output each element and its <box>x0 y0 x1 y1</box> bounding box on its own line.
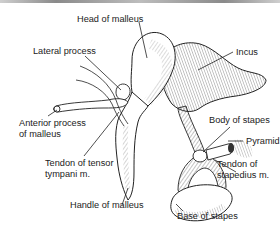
lateral-process-shape <box>116 84 130 100</box>
label-tendon-tensor-line1: Tendon of tensor <box>45 158 113 169</box>
label-tendon-tensor-line2: tympani m. <box>45 169 90 180</box>
label-head-of-malleus: Head of malleus <box>77 14 143 25</box>
label-incus: Incus <box>236 47 258 58</box>
label-base-of-stapes: Base of stapes <box>177 211 238 222</box>
label-tendon-stapedius-line1: Tendon of <box>217 159 257 170</box>
leader-tendon-tensor <box>84 112 119 156</box>
label-lateral-process: Lateral process <box>33 46 96 57</box>
leader-anterior-process <box>48 110 57 116</box>
label-anterior-process-line2: of malleus <box>19 129 61 140</box>
label-pyramid: Pyramid <box>246 136 280 147</box>
body-of-stapes-shape <box>193 150 207 162</box>
anterior-process-shape <box>54 99 128 112</box>
label-handle-of-malleus: Handle of malleus <box>70 200 144 211</box>
label-body-of-stapes: Body of stapes <box>209 115 270 126</box>
label-anterior-process-line1: Anterior process <box>19 118 86 129</box>
label-tendon-stapedius-line2: stapedius m. <box>217 170 269 181</box>
handle-of-malleus-shape <box>116 92 148 200</box>
leader-lateral-process <box>85 56 121 90</box>
